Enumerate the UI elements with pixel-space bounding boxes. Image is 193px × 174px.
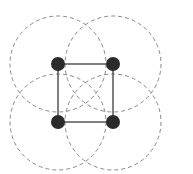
graph-nodes — [51, 57, 120, 129]
node-bottom-left — [51, 115, 65, 129]
node-top-right — [106, 57, 120, 71]
coverage-circles — [10, 16, 161, 170]
node-top-left — [51, 57, 65, 71]
diagram-canvas — [0, 0, 193, 174]
node-bottom-right — [106, 115, 120, 129]
